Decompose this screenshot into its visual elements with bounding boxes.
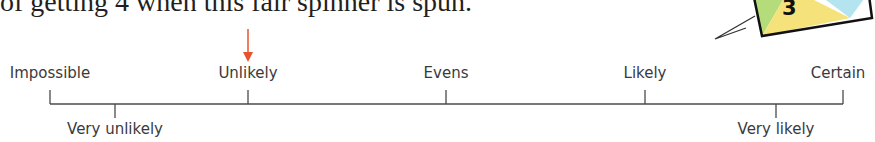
label-very-likely: Very likely: [738, 120, 815, 138]
label-unlikely: Unlikely: [218, 64, 277, 82]
label-impossible: Impossible: [10, 64, 90, 82]
label-evens: Evens: [424, 64, 469, 82]
label-certain: Certain: [811, 64, 866, 82]
label-likely: Likely: [624, 64, 667, 82]
marker-arrow-icon: [243, 29, 253, 62]
label-very-unlikely: Very unlikely: [67, 120, 163, 138]
